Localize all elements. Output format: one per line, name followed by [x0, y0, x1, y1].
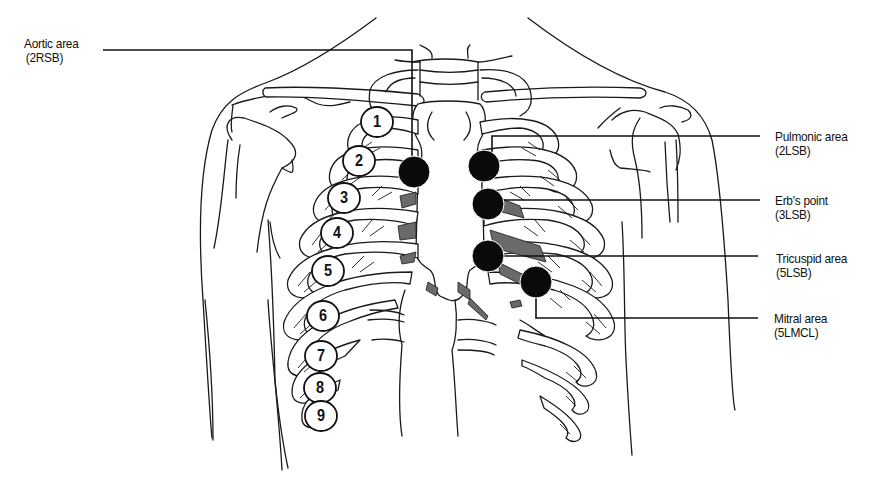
tricuspid-point	[472, 240, 504, 272]
erbs-point-name: Erb's point	[775, 194, 828, 208]
pulmonic-area-name: Pulmonic area	[775, 130, 848, 144]
right-shoulder-bones	[598, 106, 691, 238]
mitral-area-code: (5LMCL)	[774, 326, 827, 340]
aortic-area-label: Aortic area (2RSB)	[24, 37, 79, 65]
erbs-point-code: (3LSB)	[775, 208, 828, 222]
aortic-point	[398, 156, 430, 188]
tricuspid-area-name: Tricuspid area	[776, 252, 847, 266]
pulmonic-point	[468, 150, 500, 182]
rib-number-1: 1	[363, 107, 392, 137]
mitral-area-label: Mitral area (5LMCL)	[774, 312, 827, 340]
tricuspid-area-label: Tricuspid area (5LSB)	[776, 252, 847, 280]
mitral-point	[520, 266, 552, 298]
rib-number-5: 5	[314, 256, 343, 286]
rib-number-6: 6	[309, 301, 338, 331]
rib-number-8: 8	[306, 373, 335, 403]
rib-number-9: 9	[307, 401, 336, 431]
pulmonic-area-label: Pulmonic area (2LSB)	[775, 130, 848, 158]
erbs-point	[472, 188, 504, 220]
aortic-area-code: (2RSB)	[24, 51, 79, 65]
auscultation-diagram: 1 2 3 4 5 6 7 8 9 Aortic area (2RSB) Pul…	[0, 0, 890, 488]
pulmonic-area-code: (2LSB)	[775, 144, 848, 158]
aortic-area-name: Aortic area	[24, 37, 79, 51]
rib-number-2: 2	[345, 146, 374, 176]
rib-number-4: 4	[323, 218, 352, 248]
tricuspid-area-code: (5LSB)	[776, 266, 847, 280]
rib-number-3: 3	[330, 183, 359, 213]
erbs-point-label: Erb's point (3LSB)	[775, 194, 828, 222]
lower-torso-lines	[368, 290, 545, 436]
mitral-area-name: Mitral area	[774, 312, 827, 326]
rib-number-7: 7	[307, 341, 336, 371]
chest-illustration	[0, 0, 890, 488]
